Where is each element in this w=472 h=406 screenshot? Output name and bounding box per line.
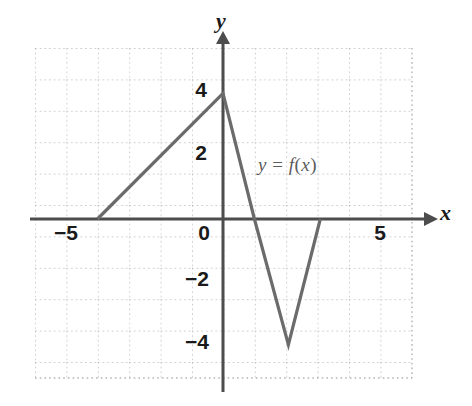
x-tick-label-neg5: −5 xyxy=(48,222,84,243)
y-tick-label-2: 2 xyxy=(188,142,214,163)
y-tick-label-4: 4 xyxy=(188,79,214,100)
curve-label-paren-close: ) xyxy=(310,154,317,175)
x-axis-label: x xyxy=(440,202,451,224)
curve-label-x: x xyxy=(301,154,310,175)
curve-equation-label: y = f(x) xyxy=(258,155,317,174)
y-tick-label-neg4: −4 xyxy=(180,331,214,352)
graph-figure: 4 2 −2 −4 −5 0 5 x y y = f(x) xyxy=(0,0,472,406)
y-axis-label: y xyxy=(216,10,226,32)
coordinate-plane xyxy=(0,0,472,406)
y-tick-label-neg2: −2 xyxy=(180,268,214,289)
curve-label-equals: = xyxy=(272,154,283,175)
curve-label-y: y xyxy=(258,154,267,175)
x-tick-label-0: 0 xyxy=(192,222,216,243)
x-tick-label-5: 5 xyxy=(368,222,392,243)
